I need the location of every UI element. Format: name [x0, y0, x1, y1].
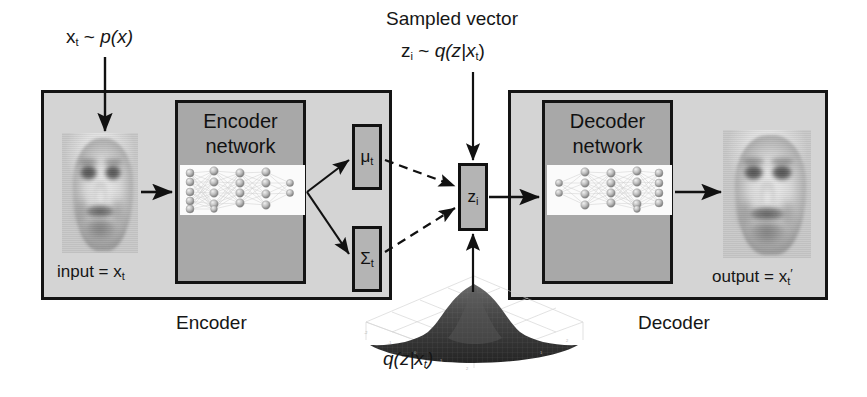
face-grain	[723, 130, 811, 258]
encoder-nn-illustration	[180, 165, 305, 215]
output-caption: output = xt′	[712, 266, 793, 287]
decoder-outer-label: Decoder	[638, 312, 710, 334]
mu-to-zi-arrow	[385, 160, 455, 186]
decoder-network-title-line1: Decoder	[545, 109, 670, 134]
sampled-tilde: ~	[418, 40, 429, 61]
input-x-symbol: x	[66, 26, 76, 47]
input-px: p(x)	[100, 26, 133, 47]
mu-label: μt	[361, 147, 374, 167]
encoder-network-title-line2: network	[178, 134, 303, 159]
input-caption-subscript: t	[122, 270, 125, 282]
gaussian-label-close: )	[427, 348, 433, 369]
output-caption-text: output = x	[712, 267, 787, 286]
sigma-to-zi-arrow	[385, 208, 455, 252]
svg-text:2: 2	[466, 366, 469, 371]
sampled-vector-caption: Sampled vector	[386, 8, 518, 30]
zi-symbol: z	[468, 187, 477, 206]
svg-text:2: 2	[566, 338, 569, 343]
encoder-network-box: Encoder network	[175, 100, 306, 284]
sampled-z-subscript: i	[411, 50, 413, 62]
encoder-outer-label: Encoder	[176, 312, 247, 334]
input-face-image	[62, 133, 138, 253]
mu-symbol: μ	[361, 147, 371, 166]
encoder-network-title-line1: Encoder	[178, 109, 303, 134]
zi-label: zi	[468, 187, 479, 207]
decoder-network-title: Decoder network	[545, 109, 670, 159]
input-caption-text: input = x	[57, 262, 122, 281]
svg-text:-2: -2	[364, 330, 368, 335]
decoder-network-box: Decoder network	[542, 100, 673, 284]
sampled-q-close: )	[479, 40, 485, 61]
output-caption-prime: ′	[790, 266, 792, 281]
input-caption: input = xt	[57, 262, 125, 282]
zi-subscript: i	[476, 195, 478, 207]
input-x-subscript: t	[76, 36, 79, 48]
output-face-image	[723, 130, 811, 258]
mu-subscript: t	[370, 155, 373, 167]
input-distribution-label: xt ~ p(x)	[66, 26, 133, 48]
sampled-vector-formula: zi ~ q(z|xt)	[401, 40, 485, 62]
svg-text:-1: -1	[388, 340, 392, 345]
gaussian-label-text: q(z|x	[383, 348, 424, 369]
sampled-q: q(z|x	[435, 40, 476, 61]
input-tilde: ~	[84, 26, 95, 47]
decoder-network-title-line2: network	[545, 134, 670, 159]
sampled-z: z	[401, 40, 411, 61]
encoder-nn-graph	[180, 165, 305, 215]
face-grain	[62, 133, 138, 253]
zi-box: zi	[458, 163, 488, 231]
gaussian-label: q(z|xt)	[383, 348, 433, 370]
decoder-nn-illustration	[547, 165, 672, 215]
diagram-canvas: Encoder network	[0, 0, 867, 397]
encoder-network-title: Encoder network	[178, 109, 303, 159]
decoder-nn-graph	[547, 165, 672, 215]
mu-box: μt	[352, 124, 382, 190]
